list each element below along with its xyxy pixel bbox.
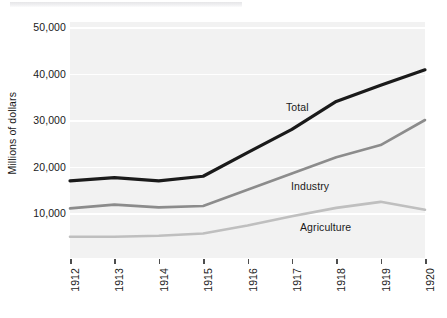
series-label-total: Total bbox=[286, 101, 309, 113]
chart-figure: Millions of dollars 50,000 40,000 30,000… bbox=[0, 0, 447, 318]
series-lines bbox=[0, 0, 447, 318]
series-label-agriculture: Agriculture bbox=[300, 221, 351, 233]
series-line-total bbox=[70, 70, 425, 181]
series-line-agriculture bbox=[70, 202, 425, 237]
series-label-industry: Industry bbox=[291, 180, 329, 192]
series-line-industry bbox=[70, 120, 425, 208]
